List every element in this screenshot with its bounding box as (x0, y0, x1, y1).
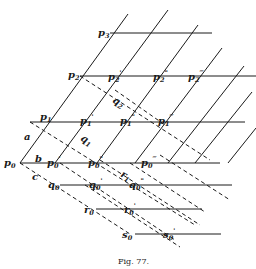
label-p2-prime: p2' (108, 69, 122, 84)
label-p3: p3 (98, 27, 110, 40)
label-c: c (32, 171, 38, 182)
label-q0-double-prime: q0" (129, 177, 144, 192)
figure-caption: Fig. 77. (118, 257, 149, 266)
label-s0: s0 (122, 229, 133, 242)
label-p0-prime: p0' (47, 155, 61, 170)
dashed-line-6 (130, 163, 205, 212)
label-q1: q1 (78, 132, 94, 149)
dashed-line-4 (80, 76, 210, 160)
point-labels: p3 p2 p2' p2" p2‴ q2 p1 p1' p1" p1‴ a q1… (4, 27, 205, 242)
label-p1-prime: p1' (80, 113, 94, 128)
oblique-line-5 (168, 66, 244, 163)
label-p1-triple-prime: p1‴ (158, 113, 175, 128)
dashed-line-3 (30, 122, 195, 225)
figure-77-diagram: p3 p2 p2' p2" p2‴ q2 p1 p1' p1" p1‴ a q1… (0, 0, 256, 269)
label-q0-prime: q0' (89, 177, 103, 192)
label-s0-prime: s0' (163, 227, 175, 242)
label-p0: p0 (4, 157, 16, 170)
oblique-line-1 (20, 14, 128, 163)
label-q0: q0 (48, 179, 60, 192)
label-b: b (35, 153, 42, 164)
label-p2: p2 (68, 69, 80, 82)
label-a: a (24, 131, 30, 142)
horizontal-lines (20, 33, 256, 234)
oblique-line-6 (195, 92, 252, 163)
label-p2-double-prime: p2" (153, 69, 168, 84)
label-r0-prime: r0' (124, 202, 136, 217)
label-p1-double-prime: p1" (120, 113, 135, 128)
label-r0: r0 (84, 204, 94, 217)
oblique-line-7 (228, 128, 256, 163)
dashed-line-8 (160, 155, 230, 200)
label-p2-triple-prime: p2‴ (188, 69, 205, 84)
label-p0-triple-prime: p0‴ (141, 155, 158, 170)
label-p0-double-prime: p0" (88, 155, 103, 170)
